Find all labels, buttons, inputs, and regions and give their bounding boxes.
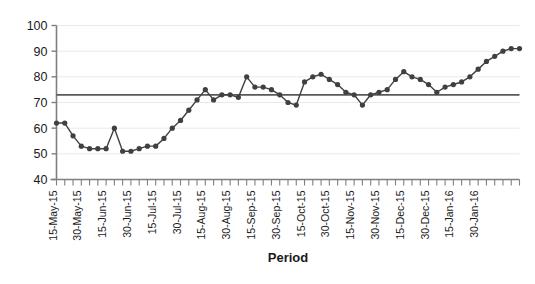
data-point — [104, 146, 109, 151]
x-tick-label: 15-Dec-15 — [394, 190, 406, 239]
data-point — [95, 146, 100, 151]
data-point — [252, 85, 257, 90]
data-point — [509, 46, 514, 51]
data-point — [269, 87, 274, 92]
data-point — [500, 49, 505, 54]
x-tick-label: 30-Jan-16 — [468, 190, 480, 237]
data-point — [459, 79, 464, 84]
data-point — [376, 90, 381, 95]
data-point — [335, 82, 340, 87]
y-tick-label: 50 — [34, 147, 48, 161]
data-point — [87, 146, 92, 151]
x-tick-label: 15-Sep-15 — [245, 190, 257, 239]
data-point — [343, 90, 348, 95]
x-tick-label: 30-Aug-15 — [220, 190, 232, 239]
x-tick-label: 30-May-15 — [71, 190, 83, 240]
data-point — [302, 79, 307, 84]
data-point — [261, 85, 266, 90]
chart-canvas: 405060708090100 15-May-1530-May-1515-Jun… — [0, 0, 535, 284]
data-point — [70, 133, 75, 138]
data-point — [186, 108, 191, 113]
data-point — [484, 59, 489, 64]
x-tick-label: 15-Jun-15 — [96, 190, 108, 237]
data-point — [401, 69, 406, 74]
data-point — [211, 97, 216, 102]
x-tick-label: 15-Nov-15 — [344, 190, 356, 239]
x-tick-label: 15-May-15 — [47, 190, 59, 240]
data-point — [194, 97, 199, 102]
data-point — [170, 126, 175, 131]
data-point — [385, 87, 390, 92]
x-tick-label: 15-Jan-16 — [443, 190, 455, 237]
data-point — [145, 144, 150, 149]
data-point — [62, 120, 67, 125]
x-axis-title: Period — [268, 250, 309, 265]
data-point — [517, 46, 522, 51]
data-point — [310, 74, 315, 79]
y-tick-label: 100 — [27, 19, 48, 33]
data-point — [79, 144, 84, 149]
data-point — [318, 72, 323, 77]
data-point — [476, 67, 481, 72]
data-point — [120, 149, 125, 154]
y-tick-label: 80 — [34, 70, 48, 84]
data-point — [467, 74, 472, 79]
data-point — [418, 77, 423, 82]
data-point — [128, 149, 133, 154]
line-chart: 405060708090100 15-May-1530-May-1515-Jun… — [0, 0, 535, 284]
data-point — [327, 77, 332, 82]
y-tick-label: 90 — [34, 45, 48, 59]
x-tick-label: 30-Jun-15 — [121, 190, 133, 237]
y-tick-label: 70 — [34, 96, 48, 110]
data-point — [161, 136, 166, 141]
data-point — [112, 126, 117, 131]
y-tick-label: 40 — [34, 173, 48, 187]
data-point — [219, 92, 224, 97]
data-point — [54, 120, 59, 125]
y-tick-label: 60 — [34, 122, 48, 136]
x-tick-label: 15-Aug-15 — [195, 190, 207, 239]
x-tick-label: 30-Jul-15 — [171, 190, 183, 234]
data-point — [294, 102, 299, 107]
data-point — [434, 90, 439, 95]
data-point — [352, 92, 357, 97]
data-point — [153, 144, 158, 149]
data-point — [451, 82, 456, 87]
x-tick-label: 30-Oct-15 — [319, 190, 331, 237]
data-point — [236, 95, 241, 100]
data-point — [393, 77, 398, 82]
data-point — [426, 82, 431, 87]
data-point — [203, 87, 208, 92]
x-tick-label: 30-Sep-15 — [270, 190, 282, 239]
x-tick-label: 30-Dec-15 — [419, 190, 431, 239]
data-point — [244, 74, 249, 79]
x-tick-label: 15-Jul-15 — [146, 190, 158, 234]
data-point — [442, 85, 447, 90]
x-tick-label: 15-Oct-15 — [295, 190, 307, 237]
data-point — [228, 92, 233, 97]
data-point — [409, 74, 414, 79]
data-point — [492, 54, 497, 59]
data-point — [178, 118, 183, 123]
data-point — [368, 92, 373, 97]
data-point — [360, 102, 365, 107]
data-point — [285, 100, 290, 105]
data-point — [277, 92, 282, 97]
x-tick-label: 30-Nov-15 — [369, 190, 381, 239]
data-point — [137, 146, 142, 151]
